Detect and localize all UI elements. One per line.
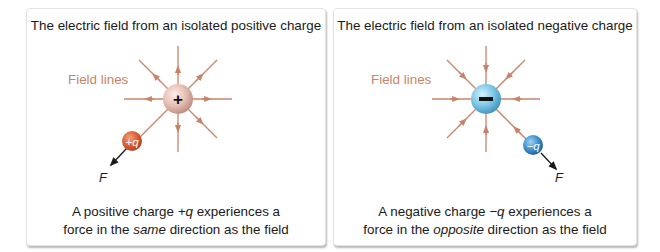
minus-sign-icon <box>479 97 493 101</box>
force-arrow <box>111 148 127 165</box>
caption-line-2: force in the opposite direction as the f… <box>334 221 636 239</box>
force-label: F <box>99 170 107 185</box>
caption-line-2: force in the same direction as the field <box>27 221 325 239</box>
caption-line-1: A negative charge −q experiences a <box>334 203 636 221</box>
caption: A negative charge −q experiences a force… <box>334 203 636 239</box>
test-charge-label: +q <box>125 136 139 148</box>
force-arrow <box>541 153 556 169</box>
test-charge-label: −q <box>526 140 540 152</box>
positive-charge-panel: The electric field from an isolated posi… <box>26 8 326 246</box>
negative-charge-panel: The electric field from an isolated nega… <box>333 8 637 246</box>
force-label: F <box>555 170 563 185</box>
caption-line-1: A positive charge +q experiences a <box>27 203 325 221</box>
plus-sign-icon: + <box>173 90 183 109</box>
caption: A positive charge +q experiences a force… <box>27 203 325 239</box>
